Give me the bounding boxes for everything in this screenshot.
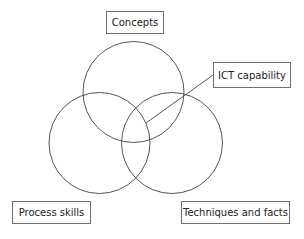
label-ict-capability-text: ICT capability (218, 70, 286, 81)
label-techniques-and-facts: Techniques and facts (181, 201, 290, 224)
circle-concepts (83, 42, 184, 143)
label-techniques-text: Techniques and facts (183, 207, 288, 218)
ict-leader-line (146, 75, 213, 123)
label-concepts: Concepts (106, 11, 164, 34)
label-process-skills: Process skills (12, 201, 91, 224)
label-ict-capability: ICT capability (213, 62, 291, 88)
label-concepts-text: Concepts (112, 17, 159, 28)
circle-techniques-and-facts (122, 93, 223, 194)
circle-process-skills (49, 93, 150, 194)
label-process-skills-text: Process skills (19, 207, 85, 218)
